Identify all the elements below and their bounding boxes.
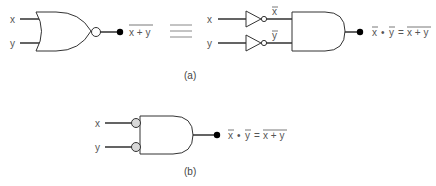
y-bar-label: y: [272, 30, 277, 41]
inverter-x-bubble-icon: [261, 16, 266, 21]
svg-text:x + y: x + y: [407, 27, 428, 38]
caption-b: (b): [184, 166, 196, 177]
and-gate-body-icon: [292, 12, 345, 51]
svg-text:=: =: [254, 130, 260, 141]
svg-text:x + y: x + y: [263, 130, 284, 141]
nor-output-expression: x + y: [129, 27, 150, 38]
svg-text:=: =: [398, 27, 404, 38]
input-x-bubble-icon: [132, 119, 141, 128]
inversion-bubble-icon: [92, 28, 101, 37]
inverter-x-icon: [246, 11, 261, 27]
input-y-bubble-icon: [132, 143, 141, 152]
and-output-expression: x • y = x + y: [372, 27, 431, 38]
input-x-label: x: [95, 118, 100, 129]
input-y-label: y: [10, 38, 15, 49]
equivalence-symbol-icon: [170, 25, 192, 37]
svg-text:y: y: [389, 27, 394, 38]
and-gate-body-icon: [140, 116, 193, 154]
nor-gate-group: x y x + y: [10, 12, 153, 51]
input-y-label: y: [95, 142, 100, 153]
svg-text:x: x: [228, 130, 233, 141]
output-dot-icon: [214, 132, 220, 138]
or-gate-body-icon: [36, 12, 91, 51]
svg-text:•: •: [237, 130, 241, 141]
bubbled-and-output-expression: x • y = x + y: [228, 130, 287, 141]
inverter-and-group: x y x y x • y = x + y: [207, 6, 431, 51]
svg-text:x: x: [372, 27, 377, 38]
x-bar-label: x: [272, 6, 277, 17]
inverter-y-icon: [246, 35, 261, 51]
output-dot-icon: [357, 29, 363, 35]
input-x-label: x: [207, 14, 212, 25]
bubbled-and-group: x y x • y = x + y: [95, 116, 287, 154]
nor-demorgan-diagram: x y x + y x y x y x: [0, 0, 436, 186]
svg-text:•: •: [381, 27, 385, 38]
output-dot-icon: [117, 29, 123, 35]
svg-text:y: y: [245, 130, 250, 141]
caption-a: (a): [184, 70, 196, 81]
input-y-label: y: [207, 38, 212, 49]
inverter-y-bubble-icon: [261, 40, 266, 45]
input-x-label: x: [10, 14, 15, 25]
